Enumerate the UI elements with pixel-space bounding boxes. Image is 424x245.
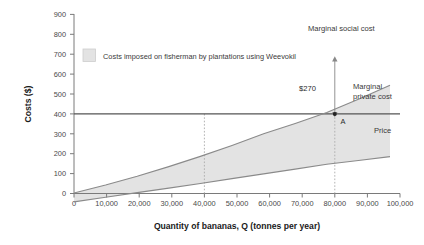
external-cost-gap-label: $270 <box>299 84 316 93</box>
x-tick-label-60000: 60,000 <box>258 199 281 208</box>
x-tick-label-40000: 40,000 <box>193 199 216 208</box>
legend-swatch <box>83 49 96 62</box>
y-tick-label-700: 700 <box>54 50 66 59</box>
x-tick-label-10000: 10,000 <box>95 199 118 208</box>
x-tick-label-70000: 70,000 <box>291 199 314 208</box>
legend: Costs imposed on fisherman by plantation… <box>83 49 296 62</box>
price-label: Price <box>374 126 391 135</box>
marginal-social-cost-label: Marginal social cost <box>308 24 376 33</box>
x-tick-label-0: 0 <box>72 199 76 208</box>
x-tick-label-30000: 30,000 <box>160 199 183 208</box>
y-tick-label-200: 200 <box>54 149 66 158</box>
y-tick-label-600: 600 <box>54 70 66 79</box>
y-tick-label-400: 400 <box>54 110 66 119</box>
y-tick-label-500: 500 <box>54 90 66 99</box>
marginal-private-cost-label-line2: private cost <box>353 92 393 101</box>
point-a-marker <box>333 112 337 116</box>
y-tick-label-900: 900 <box>54 10 66 19</box>
y-tick-label-0: 0 <box>62 189 66 198</box>
y-tick-label-300: 300 <box>54 130 66 139</box>
y-tick-label-800: 800 <box>54 30 66 39</box>
y-axis-title: Costs ($) <box>23 85 33 122</box>
x-tick-label-80000: 80,000 <box>323 199 346 208</box>
legend-label-text: Costs imposed on fisherman by plantation… <box>103 52 296 61</box>
x-tick-label-100000: 100,000 <box>387 199 414 208</box>
marginal-private-cost-label-line1: Marginal <box>353 82 382 91</box>
x-tick-label-50000: 50,000 <box>226 199 249 208</box>
externality-chart: 0 100 200 300 400 500 600 700 800 900 0 … <box>0 0 424 245</box>
x-axis-title: Quantity of bananas, Q (tonnes per year) <box>154 221 320 231</box>
x-tick-label-20000: 20,000 <box>128 199 151 208</box>
x-tick-label-90000: 90,000 <box>356 199 379 208</box>
point-a-label: A <box>341 117 346 126</box>
y-tick-label-100: 100 <box>54 169 66 178</box>
